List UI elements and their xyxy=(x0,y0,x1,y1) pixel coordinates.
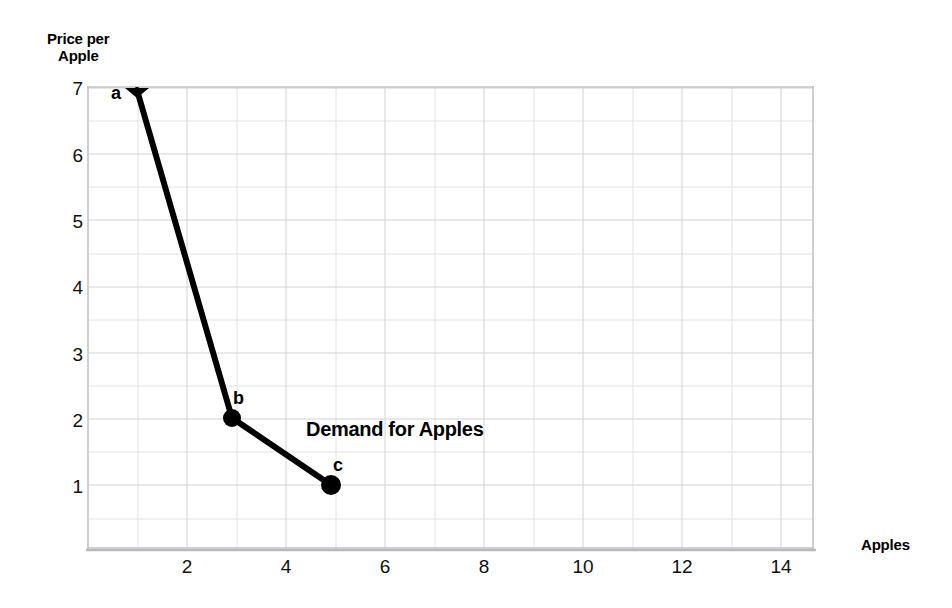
plot-frame xyxy=(87,86,814,549)
data-point-marker-a xyxy=(125,88,149,98)
data-point-label-b: b xyxy=(233,388,244,409)
demand-curve-chart: Price perApple Apples 7 6 5 4 3 2 1 2 4 … xyxy=(0,0,952,608)
grid-minor xyxy=(88,88,813,548)
data-point-label-c: c xyxy=(333,455,343,476)
data-point-label-a: a xyxy=(111,83,121,104)
plot-area xyxy=(0,0,952,608)
data-point-marker-b xyxy=(223,409,241,427)
data-point-marker-c xyxy=(321,475,341,495)
grid-major xyxy=(88,88,813,548)
chart-annotation: Demand for Apples xyxy=(306,418,484,441)
